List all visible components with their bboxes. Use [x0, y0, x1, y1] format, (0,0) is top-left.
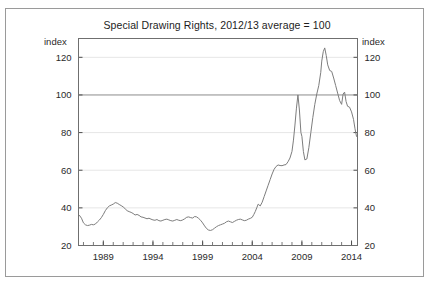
x-tick-label-2004: 2004 — [242, 251, 263, 262]
gridlines-group — [79, 57, 358, 208]
y-tick-label-left-60: 60 — [61, 165, 72, 176]
y-tick-label-left-80: 80 — [61, 127, 72, 138]
y-tick-label-right-100: 100 — [365, 89, 381, 100]
axis-major-ticks — [79, 57, 358, 245]
y-tick-label-left-40: 40 — [61, 202, 72, 213]
y-tick-label-right-20: 20 — [365, 240, 376, 251]
y-tick-label-right-80: 80 — [365, 127, 376, 138]
x-axis-tick-labels: 198919941999200420092014 — [93, 251, 362, 262]
y-tick-label-left-20: 20 — [61, 240, 72, 251]
y-tick-label-right-120: 120 — [365, 52, 381, 63]
x-tick-label-2014: 2014 — [341, 251, 362, 262]
data-series-line — [79, 48, 356, 231]
x-tick-label-1999: 1999 — [192, 251, 213, 262]
y-tick-label-right-40: 40 — [365, 202, 376, 213]
y-axis-tick-labels-left: 20406080100120 — [56, 52, 72, 251]
x-tick-label-1994: 1994 — [142, 251, 163, 262]
y-axis-tick-labels-right: 20406080100120 — [365, 52, 381, 251]
x-axis-minor-ticks — [83, 242, 351, 246]
x-tick-label-2009: 2009 — [291, 251, 312, 262]
plot-frame-border — [79, 39, 358, 246]
series-line-special-drawing-rights-index — [79, 48, 356, 231]
y-tick-label-left-100: 100 — [56, 89, 72, 100]
x-tick-label-1989: 1989 — [93, 251, 114, 262]
y-tick-label-right-60: 60 — [365, 165, 376, 176]
chart-plot-area: 20406080100120 20406080100120 1989199419… — [0, 0, 434, 285]
chart-figure: Special Drawing Rights, 2012/13 average … — [0, 0, 434, 285]
y-tick-label-left-120: 120 — [56, 52, 72, 63]
